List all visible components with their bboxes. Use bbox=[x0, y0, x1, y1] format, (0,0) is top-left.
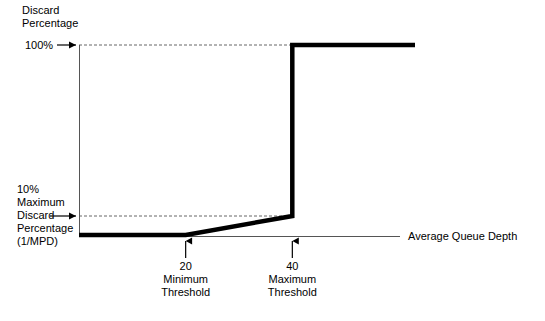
chart-title-line2: Percentage bbox=[22, 17, 78, 29]
chart-canvas: DiscardPercentage 100% 10%MaximumDiscard… bbox=[0, 0, 545, 321]
x-tick-value-40: 40 bbox=[286, 260, 298, 272]
x-tick-min-line2: Threshold bbox=[161, 286, 210, 298]
y-tick-label-100: 100% bbox=[25, 39, 53, 52]
x-tick-maximum-threshold: 40MaximumThreshold bbox=[252, 260, 332, 299]
y-note-line3: Percentage bbox=[17, 222, 73, 234]
y-tick-label-10: 10% bbox=[17, 183, 39, 195]
x-tick-min-line1: Minimum bbox=[163, 273, 208, 285]
y-note-line2: Discard bbox=[17, 209, 54, 221]
x-tick-value-20: 20 bbox=[180, 260, 192, 272]
discard-profile-curve bbox=[79, 45, 415, 235]
x-tick-max-line2: Threshold bbox=[268, 286, 317, 298]
y-note-line1: Maximum bbox=[17, 196, 65, 208]
x-tick-max-line1: Maximum bbox=[268, 273, 316, 285]
x-axis-title: Average Queue Depth bbox=[408, 230, 517, 243]
chart-title-line1: Discard bbox=[22, 4, 59, 16]
x-tick-minimum-threshold: 20MinimumThreshold bbox=[146, 260, 226, 299]
chart-title: DiscardPercentage bbox=[22, 4, 78, 30]
y-note-line4: (1/MPD) bbox=[17, 235, 58, 247]
y-tick-label-10-annotation: 10%MaximumDiscardPercentage(1/MPD) bbox=[17, 183, 73, 248]
